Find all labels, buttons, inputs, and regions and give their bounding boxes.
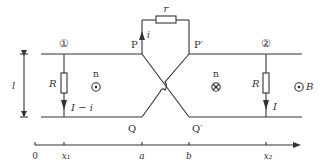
width-dimension xyxy=(20,54,28,117)
axis-arrow-icon xyxy=(293,142,301,148)
x-axis xyxy=(35,142,301,148)
label-R-right: R xyxy=(251,78,260,89)
current-arrow-left-icon xyxy=(61,100,67,110)
axis-tick-a: a xyxy=(139,151,144,161)
field-in-middle-icon xyxy=(212,83,220,91)
label-R-left: R xyxy=(48,78,57,89)
node-1-label: ① xyxy=(59,37,69,50)
label-i: i xyxy=(147,30,150,40)
label-P-prime: P′ xyxy=(194,39,204,50)
circuit-diagram: ① ② P P′ Q Q′ r i R R I − i I n n B l 0 … xyxy=(0,0,332,167)
axis-origin-label: 0 xyxy=(32,151,38,161)
axis-tick-x1: x₁ xyxy=(62,151,71,161)
current-arrow-i-icon xyxy=(139,31,145,40)
field-out-right-icon xyxy=(295,83,303,91)
label-Q: Q xyxy=(128,123,136,134)
label-n-left: n xyxy=(93,69,99,79)
axis-tick-x2: x₂ xyxy=(264,151,273,161)
label-I: I xyxy=(272,101,278,112)
resistor-r xyxy=(156,16,176,23)
label-B: B xyxy=(305,81,313,92)
field-out-left-icon xyxy=(92,83,100,91)
label-n-right: n xyxy=(213,69,219,79)
label-I-minus-i: I − i xyxy=(70,102,93,113)
crossing-wires xyxy=(142,54,189,117)
node-2-label: ② xyxy=(261,37,271,50)
label-l: l xyxy=(12,80,15,91)
resistor-left xyxy=(61,54,67,117)
label-r: r xyxy=(164,3,170,14)
label-P: P xyxy=(131,39,138,50)
axis-tick-b: b xyxy=(186,151,192,161)
label-Q-prime: Q′ xyxy=(192,123,203,134)
current-arrow-right-icon xyxy=(263,100,269,110)
resistor-right xyxy=(263,54,269,117)
